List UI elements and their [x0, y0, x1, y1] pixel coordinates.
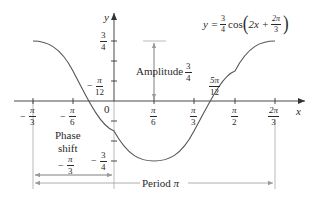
phase-fraction: 2π3: [271, 15, 281, 34]
x-tick-pi-6: π6: [150, 106, 157, 127]
y-tick-bottom: 34: [100, 151, 107, 172]
amplitude-value: 34: [185, 62, 192, 83]
y-axis-label: y: [104, 12, 109, 23]
amplitude-label: Amplitude: [136, 66, 183, 77]
phase-shift-label-line1: Phase: [55, 130, 81, 141]
phase-shift-value: π3: [67, 155, 74, 176]
x-tick-pi-3: π3: [190, 106, 197, 127]
x-tick-pi-2: π2: [231, 106, 238, 127]
zero-crossing-2-label: 5π12: [209, 76, 220, 97]
phase-shift-label-line2: shift: [58, 143, 78, 154]
zero-crossing-1-label: π12: [95, 76, 104, 97]
y-tick-top: 34: [100, 31, 107, 52]
coef-fraction: 34: [220, 15, 226, 34]
x-tick-neg-pi-3: π3: [29, 106, 36, 127]
period-label: Period π: [142, 178, 179, 189]
x-axis-label: x: [296, 106, 301, 117]
x-tick-neg-pi-6: π6: [69, 106, 76, 127]
equation-label: y = 34 cos ( 2x + 2π3 ): [203, 14, 289, 34]
origin-label: 0: [104, 104, 110, 115]
x-tick-2pi-3: 2π3: [268, 106, 279, 127]
